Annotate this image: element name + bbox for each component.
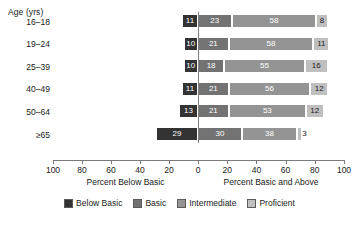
bar-value-label: 21 xyxy=(209,85,218,93)
x-axis-tick xyxy=(256,160,257,164)
legend-item-proficient[interactable]: Proficient xyxy=(247,198,294,208)
bar-segment-proficient: 11 xyxy=(313,37,329,51)
bar-value-label: 11 xyxy=(186,17,194,25)
x-axis-tick-label: 60 xyxy=(106,165,115,175)
bar-left-4: 11 xyxy=(182,82,198,96)
x-axis-tick-label: 60 xyxy=(281,165,290,175)
bar-segment-intermediate: 55 xyxy=(224,59,304,73)
category-label-text: 16–18 xyxy=(2,17,50,27)
x-axis-tick xyxy=(111,160,112,164)
bar-value-label: 10 xyxy=(186,40,195,48)
legend-swatch-icon xyxy=(133,199,142,208)
category-label-text: 40–49 xyxy=(2,84,50,94)
legend-swatch-icon xyxy=(177,199,186,208)
x-axis-tick xyxy=(227,160,228,164)
legend-swatch-icon xyxy=(247,199,256,208)
bar-value-label: 56 xyxy=(265,85,274,93)
x-axis-tick-label: 100 xyxy=(337,165,351,175)
bar-segment-below-basic: 13 xyxy=(179,104,198,118)
x-axis-label-right: Percent Basic and Above xyxy=(224,177,319,187)
bar-right-3: 185516 xyxy=(198,59,328,73)
category-label-text: ≥65 xyxy=(2,130,50,140)
bar-segment-basic: 21 xyxy=(198,104,229,118)
category-label-text: 25–39 xyxy=(2,62,50,72)
legend-item-below-basic[interactable]: Below Basic xyxy=(64,198,122,208)
bar-segment-proficient: 3 xyxy=(297,127,301,141)
bar-segment-basic: 23 xyxy=(198,14,232,28)
bar-value-label: 29 xyxy=(173,130,182,138)
bar-segment-intermediate: 38 xyxy=(242,127,297,141)
bar-segment-below-basic: 29 xyxy=(156,127,198,141)
bar-value-label: 21 xyxy=(209,40,218,48)
bar-segment-proficient: 12 xyxy=(306,104,324,118)
bar-value-label: 21 xyxy=(209,107,218,115)
bar-segment-intermediate: 53 xyxy=(229,104,306,118)
bar-value-label: 18 xyxy=(207,62,216,70)
x-axis-tick xyxy=(53,160,54,164)
bar-right-4: 215612 xyxy=(198,82,328,96)
bar-value-label: 11 xyxy=(317,40,325,48)
x-axis-tick xyxy=(198,160,199,164)
bar-segment-basic: 21 xyxy=(198,82,229,96)
x-axis-tick-label: 0 xyxy=(196,165,201,175)
bar-right-6: 30383 xyxy=(198,127,302,141)
x-axis-tick-label: 100 xyxy=(46,165,60,175)
zero-reference-line xyxy=(198,12,199,143)
legend-item-intermediate[interactable]: Intermediate xyxy=(177,198,236,208)
legend-label: Below Basic xyxy=(76,198,122,208)
x-axis-tick xyxy=(286,160,287,164)
bar-value-label: 10 xyxy=(186,62,195,70)
x-axis-tick xyxy=(344,160,345,164)
bar-value-label: 30 xyxy=(215,130,224,138)
legend-item-basic[interactable]: Basic xyxy=(133,198,166,208)
bar-value-label: 16 xyxy=(312,62,321,70)
bar-segment-basic: 21 xyxy=(198,37,229,51)
bar-value-label: 53 xyxy=(263,107,272,115)
legend-label: Basic xyxy=(145,198,166,208)
bar-value-label: 8 xyxy=(320,17,324,25)
x-axis-tick-label: 20 xyxy=(222,165,231,175)
bar-value-label: 3 xyxy=(302,130,306,138)
x-axis-tick-label: 40 xyxy=(135,165,144,175)
literacy-by-age-chart: Age (yrs) 16–18112358819–241021581125–39… xyxy=(0,0,359,225)
x-axis-tick-label: 80 xyxy=(310,165,319,175)
legend-label: Proficient xyxy=(259,198,294,208)
bar-segment-intermediate: 58 xyxy=(229,37,314,51)
x-axis-tick-label: 80 xyxy=(77,165,86,175)
bar-value-label: 58 xyxy=(269,17,278,25)
bar-segment-proficient: 8 xyxy=(316,14,328,28)
bar-left-6: 29 xyxy=(156,127,198,141)
x-axis-tick xyxy=(82,160,83,164)
bar-segment-basic: 30 xyxy=(198,127,242,141)
x-axis-tick xyxy=(169,160,170,164)
bar-segment-below-basic: 11 xyxy=(182,82,198,96)
x-axis-tick xyxy=(140,160,141,164)
bar-left-2: 10 xyxy=(184,37,199,51)
x-axis-tick-label: 40 xyxy=(252,165,261,175)
bar-segment-intermediate: 58 xyxy=(232,14,317,28)
x-axis-tick xyxy=(315,160,316,164)
bar-right-1: 23588 xyxy=(198,14,328,28)
bar-segment-basic: 18 xyxy=(198,59,224,73)
bar-segment-below-basic: 10 xyxy=(184,37,199,51)
bar-value-label: 58 xyxy=(267,40,276,48)
bar-segment-proficient: 16 xyxy=(305,59,328,73)
bar-value-label: 12 xyxy=(310,107,319,115)
bar-left-1: 11 xyxy=(182,14,198,28)
bar-segment-below-basic: 11 xyxy=(182,14,198,28)
bar-left-5: 13 xyxy=(179,104,198,118)
x-axis-tick-label: 20 xyxy=(164,165,173,175)
bar-value-label: 23 xyxy=(210,17,219,25)
bar-value-label: 11 xyxy=(186,85,194,93)
bar-value-label: 55 xyxy=(260,62,269,70)
bar-value-label: 38 xyxy=(265,130,274,138)
bar-value-label: 12 xyxy=(315,85,324,93)
category-label-text: 50–64 xyxy=(2,107,50,117)
plot-area: 16–18112358819–241021581125–391018551640… xyxy=(0,0,359,160)
bar-segment-proficient: 12 xyxy=(310,82,328,96)
legend-label: Intermediate xyxy=(189,198,236,208)
bar-left-3: 10 xyxy=(184,59,199,73)
bar-right-5: 215312 xyxy=(198,104,324,118)
bar-segment-intermediate: 56 xyxy=(229,82,311,96)
bar-segment-below-basic: 10 xyxy=(184,59,199,73)
